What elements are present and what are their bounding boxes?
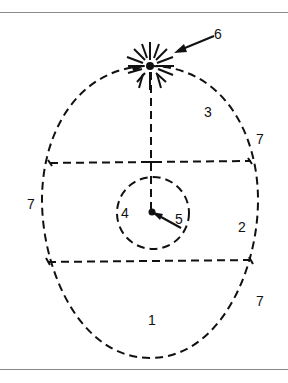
label-5: 5 [175, 212, 183, 226]
label-2: 2 [238, 220, 246, 234]
lower-divider [48, 260, 252, 262]
burst-dot [146, 62, 154, 70]
label-1: 1 [148, 313, 156, 327]
diagram-canvas [0, 0, 288, 383]
label-7-lower-right: 7 [256, 294, 264, 308]
label-6: 6 [214, 27, 222, 41]
label-7-left: 7 [27, 197, 35, 211]
label-4: 4 [121, 206, 129, 220]
label-3: 3 [204, 105, 212, 119]
hand-arrowhead [152, 212, 163, 220]
label-6-arrowhead [174, 44, 187, 53]
label-7-upper-right: 7 [256, 132, 264, 146]
